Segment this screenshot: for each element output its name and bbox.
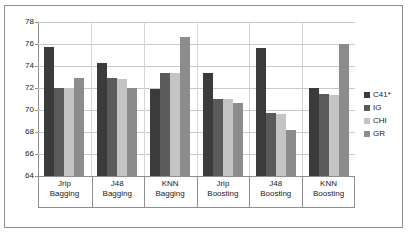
bar-chart: 7876747270686664 JripBaggingJ48BaggingKN…: [0, 0, 408, 237]
bar-group: [249, 22, 302, 176]
x-category-label-line: Boosting: [249, 189, 302, 199]
y-tick-label: 78: [10, 18, 34, 26]
bar-ig-3: [213, 99, 223, 176]
x-category-label-line: KNN: [144, 179, 197, 189]
bar-group: [91, 22, 144, 176]
legend-swatch-icon: [364, 92, 370, 98]
legend-item-ig[interactable]: IG: [364, 101, 406, 114]
legend-item-chi[interactable]: CHI: [364, 114, 406, 127]
x-category-label-line: Bagging: [91, 189, 144, 199]
x-category-label: JripBagging: [38, 179, 91, 209]
x-axis-category-labels: JripBaggingJ48BaggingKNNBaggingJripBoost…: [38, 179, 355, 209]
chart-legend: C41*IGCHIGR: [364, 88, 406, 140]
x-category-label-line: J48: [91, 179, 144, 189]
bar-gr-0: [74, 78, 84, 176]
legend-swatch-icon: [364, 105, 370, 111]
bar-c41-3: [203, 73, 213, 176]
bar-chi-1: [117, 79, 127, 176]
x-category-label-line: Bagging: [38, 189, 91, 199]
bar-ig-4: [266, 113, 276, 176]
x-category-label: J48Boosting: [249, 179, 302, 209]
bar-c41-5: [309, 88, 319, 176]
legend-swatch-icon: [364, 118, 370, 124]
y-tick-label: 66: [10, 150, 34, 158]
x-category-label-line: Bagging: [144, 189, 197, 199]
x-category-label-line: Boosting: [302, 189, 355, 199]
x-category-label: JripBoosting: [196, 179, 249, 209]
bar-chi-2: [170, 73, 180, 176]
y-tick-label: 64: [10, 172, 34, 180]
bar-c41-4: [256, 48, 266, 176]
legend-label: IG: [373, 104, 381, 112]
bar-chi-0: [64, 88, 74, 176]
x-category-label-line: KNN: [302, 179, 355, 189]
bar-chi-5: [329, 95, 339, 176]
bar-ig-2: [160, 73, 170, 176]
x-category-label-line: Jrip: [196, 179, 249, 189]
y-tick-label: 70: [10, 106, 34, 114]
bar-gr-3: [233, 103, 243, 176]
legend-item-gr[interactable]: GR: [364, 127, 406, 140]
bar-group: [302, 22, 355, 176]
x-category-label: KNNBagging: [144, 179, 197, 209]
y-tick-label: 68: [10, 128, 34, 136]
legend-label: CHI: [373, 117, 387, 125]
bar-group: [196, 22, 249, 176]
bar-gr-4: [286, 130, 296, 176]
x-category-label: J48Bagging: [91, 179, 144, 209]
bar-chi-4: [276, 114, 286, 176]
bar-ig-1: [107, 78, 117, 176]
legend-label: GR: [373, 130, 385, 138]
y-tick-label: 76: [10, 40, 34, 48]
legend-item-c41[interactable]: C41*: [364, 88, 406, 101]
bar-c41-0: [44, 47, 54, 176]
x-category-label: KNNBoosting: [302, 179, 355, 209]
legend-swatch-icon: [364, 131, 370, 137]
bar-gr-1: [127, 88, 137, 176]
bar-c41-1: [97, 63, 107, 176]
plot-area: [38, 22, 355, 176]
bar-group: [38, 22, 91, 176]
bar-groups: [38, 22, 355, 176]
bar-gr-2: [180, 37, 190, 176]
x-category-label-line: Jrip: [38, 179, 91, 189]
bar-c41-2: [150, 89, 160, 176]
bar-ig-0: [54, 88, 64, 176]
bar-group: [144, 22, 197, 176]
bar-ig-5: [319, 94, 329, 177]
x-category-label-line: J48: [249, 179, 302, 189]
bar-chi-3: [223, 99, 233, 176]
y-tick-label: 74: [10, 62, 34, 70]
y-tick-label: 72: [10, 84, 34, 92]
bar-gr-5: [339, 44, 349, 176]
legend-label: C41*: [373, 91, 391, 99]
x-category-label-line: Boosting: [196, 189, 249, 199]
y-axis-tick-labels: 7876747270686664: [10, 16, 34, 180]
